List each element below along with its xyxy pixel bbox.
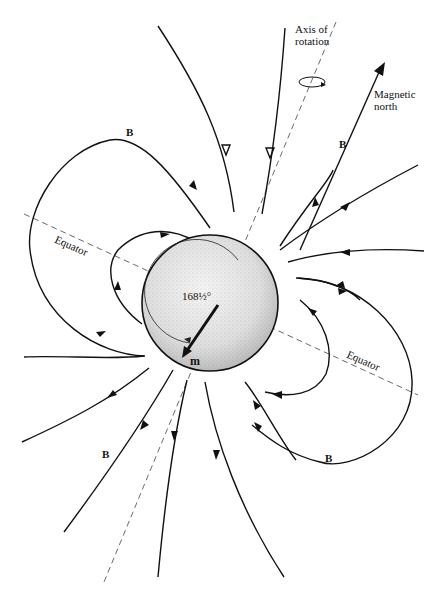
magnetic-north-line2: north: [374, 100, 416, 112]
magnetic-north-line1: Magnetic: [374, 88, 416, 100]
axis-label-line1: Axis of: [295, 23, 329, 35]
axis-of-rotation-label: Axis of rotation: [295, 23, 329, 47]
axis-label-line2: rotation: [295, 35, 329, 47]
magnetic-north-label: Magnetic north: [374, 88, 416, 112]
field-label-top-right: B: [339, 138, 346, 150]
field-label-top-left: B: [126, 126, 133, 138]
angle-label: 168½°: [182, 290, 211, 302]
moment-label: m: [190, 355, 200, 367]
field-label-bottom-right: B: [325, 452, 332, 464]
field-label-bottom-left: B: [102, 448, 109, 460]
earth-sphere: [142, 235, 278, 371]
